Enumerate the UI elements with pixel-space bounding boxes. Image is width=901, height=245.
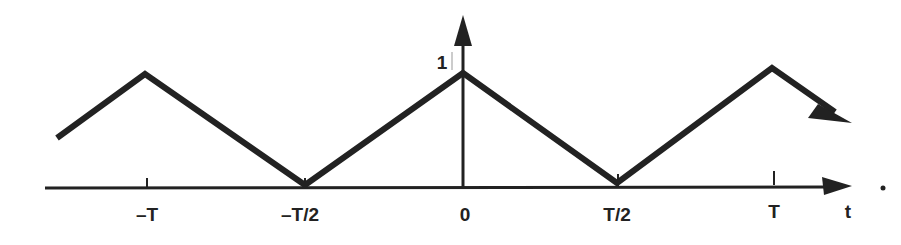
x-axis <box>45 177 852 195</box>
tick-marks <box>147 171 774 188</box>
tick-label-t: T <box>768 202 780 221</box>
y-axis <box>454 15 472 188</box>
tick-label-half-t: T/2 <box>603 205 630 224</box>
x-axis-arrow-icon <box>822 177 852 195</box>
x-axis-label: t <box>845 202 851 221</box>
tick-label-neg-half-t: –T/2 <box>281 205 319 224</box>
y-value-label: 1 <box>437 53 448 72</box>
y-axis-arrow-icon <box>454 15 472 46</box>
period-dot <box>881 186 886 191</box>
tick-label-neg-t: –T <box>136 205 158 224</box>
waveform <box>57 68 852 185</box>
tick-label-zero: 0 <box>460 205 471 224</box>
